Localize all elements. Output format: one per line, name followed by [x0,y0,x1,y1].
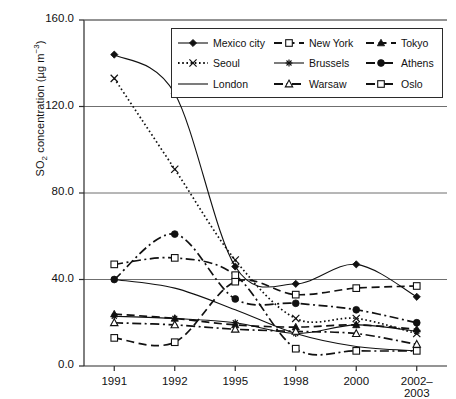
marker-open-triangle [285,80,292,87]
marker-circle [378,60,385,67]
data-point-marker-asterisk [286,60,293,67]
data-point-marker-open-square [292,345,299,352]
data-point-marker-cross-x [292,315,299,322]
marker-circle [353,306,360,313]
marker-square [232,272,239,279]
series-line [114,258,417,355]
data-point-marker-cross-x [111,75,118,82]
legend-swatch [365,57,397,69]
x-axis-tick-label: 1992 [162,375,188,387]
marker-square [111,261,118,268]
marker-circle [292,300,299,307]
chart-legend: Mexico cityNew YorkTokyoSeoulBrusselsAth… [171,28,443,98]
legend-item-london[interactable]: London [177,78,273,90]
x-axis-tick-label: 1995 [222,375,248,387]
data-point-marker-open-triangle [285,80,292,87]
legend-item-new-york[interactable]: New York [273,37,365,49]
data-point-marker-open-square [171,255,178,262]
marker-square [353,348,360,355]
data-point-marker-open-square [413,348,420,355]
data-point-marker-filled-circle [292,300,299,307]
data-point-marker-filled-diamond [413,293,420,300]
data-point-marker-open-square [286,40,293,47]
marker-diamond [292,280,299,287]
legend-label: Mexico city [213,37,265,49]
data-point-marker-filled-circle [232,296,239,303]
data-point-marker-asterisk [353,322,360,329]
data-point-marker-open-square [111,335,118,342]
marker-square [286,40,293,47]
marker-diamond [111,51,118,58]
legend-label: Athens [401,57,434,69]
marker-circle [232,296,239,303]
marker-square [171,255,178,262]
legend-label: Tokyo [401,37,428,49]
data-point-marker-open-square [353,348,360,355]
y-axis-title-sub: 2 [39,156,48,161]
y-axis-tick-label: 0.0 [16,358,74,370]
data-point-marker-open-square [232,278,239,285]
marker-circle [171,231,178,238]
data-point-marker-open-square [292,291,299,298]
marker-diamond [189,40,196,47]
legend-item-tokyo[interactable]: Tokyo [365,37,443,49]
legend-item-oslo[interactable]: Oslo [365,78,443,90]
series-athens [111,231,420,326]
legend-swatch [177,37,209,49]
legend-label: London [213,78,248,90]
data-point-marker-open-square [378,81,385,88]
legend-label: Warsaw [309,78,347,90]
data-point-marker-open-square [232,272,239,279]
data-point-marker-open-square [111,261,118,268]
y-axis-title-mid: concentration (µg m [33,53,45,156]
data-point-marker-filled-diamond [292,280,299,287]
y-axis-title: SO2 concentration (µg m−3) [32,0,49,218]
marker-square [413,348,420,355]
marker-circle [413,319,420,326]
marker-square [378,81,385,88]
data-point-marker-filled-circle [353,306,360,313]
data-point-marker-filled-diamond [111,51,118,58]
legend-swatch [365,78,397,90]
series-warsaw [111,319,421,347]
legend-item-mexico-city[interactable]: Mexico city [177,37,273,49]
data-point-marker-open-square [353,285,360,292]
data-point-marker-asterisk [413,328,420,335]
legend-swatch [273,78,305,90]
marker-square [413,283,420,290]
data-point-marker-open-square [413,283,420,290]
data-point-marker-filled-diamond [353,261,360,268]
data-point-marker-filled-circle [378,60,385,67]
legend-item-seoul[interactable]: Seoul [177,57,273,69]
legend-swatch [177,57,209,69]
y-axis-title-pre: SO [33,160,45,176]
series-london [114,280,417,351]
legend-swatch [273,37,305,49]
marker-square [171,339,178,346]
y-axis-title-post: ) [33,40,45,44]
data-point-marker-cross-x [171,166,178,173]
legend-item-brussels[interactable]: Brussels [273,57,365,69]
y-axis-tick-label: 40.0 [16,272,74,284]
marker-diamond [413,293,420,300]
legend-swatch [365,37,397,49]
legend-label: Brussels [309,57,349,69]
marker-square [111,335,118,342]
data-point-marker-open-square [171,339,178,346]
series-line [114,234,417,323]
marker-square [232,278,239,285]
y-axis-title-text: SO2 concentration (µg m−3) [33,40,45,176]
legend-swatch [273,57,305,69]
x-axis-tick-label: 1991 [101,375,127,387]
series-line [114,78,417,333]
legend-label: Seoul [213,57,240,69]
x-axis-tick-label: 1998 [283,375,309,387]
legend-label: Oslo [401,78,423,90]
marker-diamond [353,261,360,268]
y-axis-title-sup: −3 [32,44,41,53]
series-line [114,280,417,351]
marker-square [353,285,360,292]
legend-item-athens[interactable]: Athens [365,57,443,69]
legend-item-warsaw[interactable]: Warsaw [273,78,365,90]
